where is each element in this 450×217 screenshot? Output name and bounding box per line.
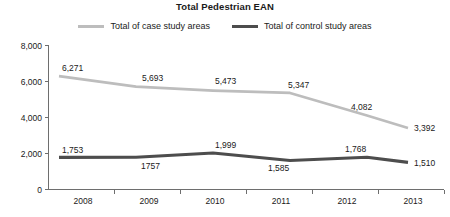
data-label-case-2013: 3,392 [414,123,435,133]
data-label-control-2011: 1,585 [268,163,289,173]
y-axis-label-4000: 4,000 [10,113,42,123]
data-label-case-2012: 4,082 [351,102,372,112]
chart-container: Total Pedestrian EAN Total of case study… [0,0,450,217]
y-tick-marks [45,46,49,190]
data-label-control-2009: 1757 [141,161,160,171]
y-axis-label-8000: 8,000 [10,41,42,51]
x-axis-label-2013: 2013 [389,196,437,206]
data-label-case-2009: 5,693 [142,73,163,83]
y-axis-label-2000: 2,000 [10,149,42,159]
x-axis-label-2011: 2011 [257,196,305,206]
data-label-control-2012: 1,768 [345,144,366,154]
data-label-control-2013: 1,510 [414,158,435,168]
plot-area [0,0,450,217]
data-label-case-2010: 5,473 [215,76,236,86]
data-label-case-2011: 5,347 [288,80,309,90]
data-label-case-2008: 6,271 [62,63,83,73]
x-axis-label-2012: 2012 [323,196,371,206]
data-label-control-2008: 1,753 [62,145,83,155]
x-axis-label-2009: 2009 [125,196,173,206]
x-tick-marks [115,190,445,195]
y-axis-label-6000: 6,000 [10,77,42,87]
data-label-control-2010: 1,999 [215,140,236,150]
x-axis-label-2008: 2008 [59,196,107,206]
x-axis-label-2010: 2010 [191,196,239,206]
y-axis-label-0: 0 [10,185,42,195]
series-line-control [59,153,408,162]
